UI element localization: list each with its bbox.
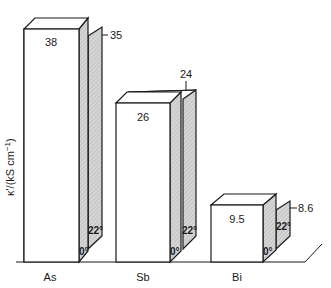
bar-group-bi: 9.5 8.6 22° 0° Bi: [211, 194, 313, 283]
bar-chart-3d: κ'/(kS cm−1) 38 35 22° 0° As 26 24 22° 0…: [0, 0, 331, 288]
category-label-bi: Bi: [232, 271, 242, 283]
angle-label: 22°: [182, 225, 197, 236]
value-label: 38: [45, 36, 57, 48]
as-0-side: [79, 18, 88, 262]
angle-label: 0°: [170, 246, 180, 257]
value-label: 24: [180, 68, 192, 80]
category-label-sb: Sb: [136, 271, 149, 283]
sb-0-side: [170, 92, 181, 262]
as-22-bar: [88, 27, 102, 249]
value-label: 8.6: [298, 202, 313, 214]
angle-label: 0°: [263, 246, 273, 257]
as-0-bar: [24, 29, 79, 262]
value-label: 9.5: [229, 213, 244, 225]
value-label: 35: [110, 29, 122, 41]
sb-0-bar: [116, 103, 170, 262]
bar-group-sb: 26 24 22° 0° Sb: [116, 68, 197, 283]
value-label: 26: [137, 111, 149, 123]
angle-label: 22°: [276, 221, 291, 232]
category-label-as: As: [44, 271, 57, 283]
angle-label: 22°: [88, 225, 103, 236]
bar-group-as: 38 35 22° 0° As: [24, 18, 122, 283]
y-axis-label: κ'/(kS cm−1): [3, 138, 16, 196]
angle-label: 0°: [79, 246, 89, 257]
